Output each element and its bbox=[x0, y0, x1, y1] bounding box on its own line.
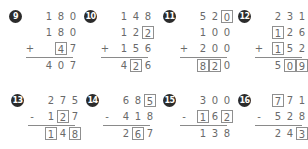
answer-digit: 3 bbox=[209, 127, 221, 140]
answer-digit: 5 bbox=[272, 59, 284, 72]
digit: 0 bbox=[209, 42, 221, 55]
answer-row: 820 bbox=[179, 59, 225, 72]
minus-sign: - bbox=[179, 110, 189, 123]
digit-answer-box[interactable]: 2 bbox=[142, 26, 154, 39]
operand-row: 771 bbox=[254, 94, 300, 107]
digit-answer-box[interactable]: 4 bbox=[55, 42, 67, 55]
digit bbox=[43, 42, 55, 55]
answer-digit-box[interactable]: 6 bbox=[132, 127, 144, 140]
operand-row: -418 bbox=[102, 110, 148, 123]
operand-row: +156 bbox=[100, 42, 146, 55]
problem-9: 9180180+47407 bbox=[9, 10, 83, 74]
digit: 0 bbox=[67, 10, 79, 23]
answer-row: 243 bbox=[254, 127, 300, 140]
answer-digit: 0 bbox=[221, 59, 233, 72]
operand-row: 180 bbox=[25, 10, 71, 23]
sum-line bbox=[255, 125, 302, 126]
digit: 2 bbox=[284, 26, 296, 39]
digit: 8 bbox=[142, 10, 154, 23]
digit: 6 bbox=[209, 110, 221, 123]
operand-row: -162 bbox=[179, 110, 225, 123]
digit-answer-box[interactable]: 1 bbox=[272, 26, 284, 39]
answer-digit: 6 bbox=[142, 59, 154, 72]
answer-digit-box[interactable]: 0 bbox=[284, 59, 296, 72]
operand-row: +47 bbox=[25, 42, 71, 55]
digit: 1 bbox=[45, 110, 57, 123]
problem-16: 16771-528243 bbox=[238, 94, 308, 149]
digit: 7 bbox=[69, 110, 81, 123]
digit: 5 bbox=[197, 10, 209, 23]
problem-15: 15300-162138 bbox=[163, 94, 237, 149]
answer-digit-box[interactable]: 9 bbox=[296, 59, 308, 72]
digit: 1 bbox=[132, 110, 144, 123]
answer-digit-box[interactable]: 8 bbox=[69, 127, 81, 140]
digit: 4 bbox=[130, 10, 142, 23]
sum-line bbox=[180, 125, 227, 126]
answer-digit: 4 bbox=[57, 127, 69, 140]
operand-row: 126 bbox=[254, 26, 300, 39]
digit: 1 bbox=[43, 26, 55, 39]
plus-sign: + bbox=[254, 42, 264, 55]
digit: 8 bbox=[144, 110, 156, 123]
digit: 3 bbox=[197, 94, 209, 107]
digit: 1 bbox=[296, 10, 308, 23]
answer-digit: 7 bbox=[67, 59, 79, 72]
digit: 0 bbox=[67, 26, 79, 39]
digit: 3 bbox=[284, 10, 296, 23]
digit: 8 bbox=[132, 94, 144, 107]
digit: 8 bbox=[296, 110, 308, 123]
digit: 5 bbox=[130, 42, 142, 55]
digit: 2 bbox=[197, 42, 209, 55]
answer-digit-box[interactable]: 3 bbox=[296, 127, 308, 140]
answer-row: 426 bbox=[100, 59, 146, 72]
answer-row: 407 bbox=[25, 59, 71, 72]
minus-sign: - bbox=[102, 110, 112, 123]
digit: 1 bbox=[118, 26, 130, 39]
answer-digit-box[interactable]: 2 bbox=[209, 59, 221, 72]
answer-digit: 0 bbox=[55, 59, 67, 72]
digit: 1 bbox=[118, 42, 130, 55]
plus-sign: + bbox=[100, 42, 110, 55]
answer-digit: 8 bbox=[221, 127, 233, 140]
answer-digit-box[interactable]: 8 bbox=[197, 59, 209, 72]
digit: 0 bbox=[209, 94, 221, 107]
answer-row: 138 bbox=[179, 127, 225, 140]
digit: 6 bbox=[142, 42, 154, 55]
digit-answer-box[interactable]: 5 bbox=[144, 94, 156, 107]
digit-answer-box[interactable]: 1 bbox=[272, 42, 284, 55]
answer-digit-box[interactable]: 2 bbox=[130, 59, 142, 72]
operand-row: +200 bbox=[179, 42, 225, 55]
operand-row: 122 bbox=[100, 26, 146, 39]
digit: 2 bbox=[284, 110, 296, 123]
sum-line bbox=[28, 125, 75, 126]
operand-row: 520 bbox=[179, 10, 225, 23]
answer-row: 509 bbox=[254, 59, 300, 72]
digit: 7 bbox=[67, 42, 79, 55]
operand-row: -528 bbox=[254, 110, 300, 123]
digit: 1 bbox=[118, 10, 130, 23]
digit: 0 bbox=[221, 26, 233, 39]
sum-line bbox=[103, 125, 150, 126]
digit-answer-box[interactable]: 1 bbox=[197, 110, 209, 123]
answer-row: 267 bbox=[102, 127, 148, 140]
digit: 6 bbox=[120, 94, 132, 107]
problem-number-badge: 10 bbox=[84, 10, 97, 23]
digit: 7 bbox=[284, 94, 296, 107]
digit: 0 bbox=[209, 26, 221, 39]
problem-10: 10148122+156426 bbox=[84, 10, 158, 74]
problem-number-badge: 12 bbox=[238, 10, 251, 23]
digit: 5 bbox=[272, 110, 284, 123]
operand-row: 685 bbox=[102, 94, 148, 107]
digit-answer-box[interactable]: 2 bbox=[57, 110, 69, 123]
digit-answer-box[interactable]: 0 bbox=[221, 10, 233, 23]
digit-answer-box[interactable]: 2 bbox=[221, 110, 233, 123]
operand-row: 148 bbox=[100, 10, 146, 23]
digit-answer-box[interactable]: 7 bbox=[272, 94, 284, 107]
problem-13: 13275-127148 bbox=[11, 94, 85, 149]
digit: 1 bbox=[197, 26, 209, 39]
problem-number-badge: 13 bbox=[11, 94, 24, 107]
digit: 5 bbox=[284, 42, 296, 55]
operand-row: -127 bbox=[27, 110, 73, 123]
operand-row: +152 bbox=[254, 42, 300, 55]
answer-digit-box[interactable]: 1 bbox=[45, 127, 57, 140]
